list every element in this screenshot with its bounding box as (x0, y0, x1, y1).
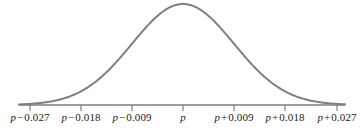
curve-group (19, 4, 345, 104)
normal-curve (19, 4, 345, 104)
axis-group (19, 105, 345, 111)
distribution-plot (0, 0, 361, 131)
x-axis-ticks (30, 105, 337, 111)
normal-distribution-figure: p−0.027p−0.018p−0.009pp+0.009p+0.018p+0.… (0, 0, 361, 131)
